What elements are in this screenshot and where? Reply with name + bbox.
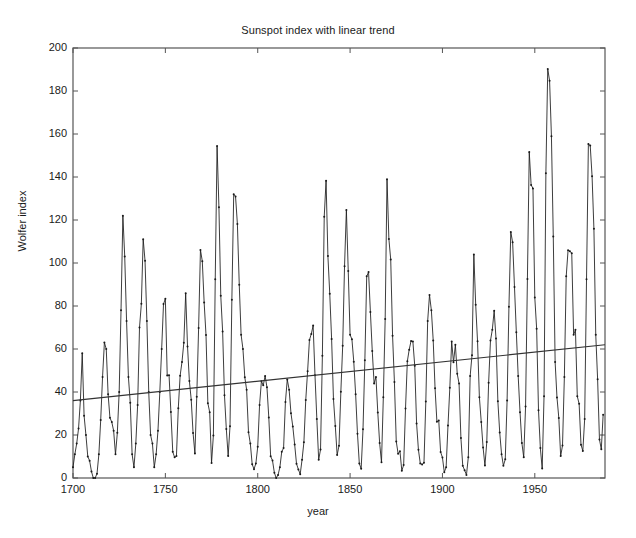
sunspot-series-line xyxy=(73,69,603,478)
chart-figure: Sunspot index with linear trend Wolfer i… xyxy=(0,0,636,538)
data-series-layer xyxy=(72,68,605,479)
plot-canvas xyxy=(0,0,636,538)
trend-line xyxy=(73,345,605,401)
sunspot-series-markers xyxy=(72,68,604,479)
